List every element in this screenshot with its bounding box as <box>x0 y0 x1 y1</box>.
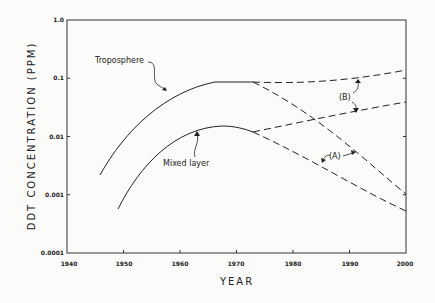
x-tick-label: 1950 <box>116 260 133 267</box>
x-tick-labels: 1940 1950 1960 1970 1980 1990 2000 <box>61 260 414 267</box>
x-tick-label: 1960 <box>172 260 189 267</box>
troposphere-arrow <box>148 62 166 90</box>
x-tick-label: 2000 <box>397 260 414 267</box>
x-axis-title: YEAR <box>219 276 254 287</box>
y-tick-labels: 1.0 0.1 0.01 0.001 0.0001 <box>41 16 64 256</box>
y-tick-label: 0.1 <box>53 74 64 81</box>
plot-frame <box>67 20 406 253</box>
y-tick-label: 0.001 <box>45 191 64 198</box>
mixed-layer-projection-a <box>253 132 406 211</box>
mixed-layer-arrow <box>194 134 197 157</box>
y-tick-label: 1.0 <box>53 16 64 23</box>
x-tick-label: 1990 <box>342 260 359 267</box>
scenario-b-label: (B) <box>339 93 351 102</box>
arrowhead-icon <box>353 108 359 113</box>
scenario-a-arrow-right <box>343 153 353 156</box>
troposphere-projection-b <box>253 70 406 83</box>
troposphere-label: Troposphere <box>94 56 144 65</box>
y-tick-label: 0.0001 <box>41 249 64 256</box>
mixed-layer-projection-b <box>253 102 406 132</box>
mixed-layer-label: Mixed layer <box>163 159 210 168</box>
x-tick-label: 1970 <box>228 260 245 267</box>
x-tick-label: 1980 <box>285 260 302 267</box>
y-axis-title: DDT CONCENTRATION (PPM) <box>26 42 37 231</box>
x-tick-label: 1940 <box>61 260 78 267</box>
ddt-concentration-chart: 1.0 0.1 0.01 0.001 0.0001 1940 1950 1960… <box>0 0 435 303</box>
y-tick-label: 0.01 <box>49 133 64 140</box>
y-axis <box>67 78 406 195</box>
scenario-a-label: (A) <box>329 152 341 161</box>
troposphere-projection-a <box>253 82 406 194</box>
arrowhead-icon <box>355 79 361 83</box>
projections <box>253 70 406 211</box>
